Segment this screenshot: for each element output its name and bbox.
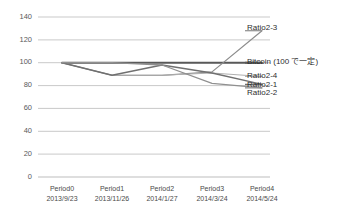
series-label-ratio2-3: Ratio2-3 bbox=[247, 23, 277, 32]
series-paths bbox=[62, 31, 262, 88]
x-tick-label: Period3 bbox=[200, 185, 224, 192]
x-tick-label: Period0 bbox=[50, 185, 74, 192]
x-tick-date: 2013/9/23 bbox=[34, 194, 90, 204]
series-label-ratio2-2: Ratio2-2 bbox=[247, 88, 277, 97]
x-axis-tick-period0: Period0 2013/9/23 bbox=[34, 184, 90, 203]
x-tick-label: Period4 bbox=[250, 185, 274, 192]
series-line-ratio2-1 bbox=[62, 63, 262, 85]
x-axis-tick-period2: Period2 2014/1/27 bbox=[134, 184, 190, 203]
x-axis-tick-period1: Period1 2013/11/26 bbox=[84, 184, 140, 203]
x-axis-tick-period3: Period3 2014/3/24 bbox=[184, 184, 240, 203]
x-tick-date: 2014/1/27 bbox=[134, 194, 190, 204]
x-tick-label: Period1 bbox=[100, 185, 124, 192]
series-label-bitcoin: Bitcoin (100 で一定) bbox=[247, 57, 318, 66]
series-label-ratio2-4: Ratio2-4 bbox=[247, 71, 277, 80]
series-line-ratio2-3 bbox=[62, 31, 262, 76]
x-tick-label: Period2 bbox=[150, 185, 174, 192]
x-axis-tick-period4: Period4 2014/5/24 bbox=[234, 184, 290, 203]
gridlines bbox=[38, 17, 270, 177]
line-chart: 140 120 100 80 60 40 20 0 Ratio2-3 Bitco… bbox=[0, 0, 340, 218]
x-tick-date: 2014/5/24 bbox=[234, 194, 290, 204]
x-tick-date: 2013/11/26 bbox=[84, 194, 140, 204]
x-tick-date: 2014/3/24 bbox=[184, 194, 240, 204]
